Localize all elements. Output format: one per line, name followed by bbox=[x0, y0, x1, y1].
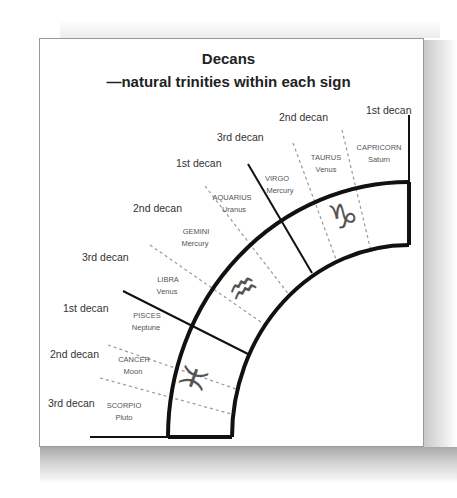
decan-label: 2nd decan bbox=[133, 202, 182, 214]
decan-label: 1st decan bbox=[63, 302, 109, 314]
pisces-glyph-icon: ♓ bbox=[170, 357, 218, 399]
ruler-name: Mercury bbox=[266, 186, 293, 195]
decan-label: 1st decan bbox=[366, 104, 412, 116]
sign-name: AQUARIUS bbox=[212, 193, 251, 202]
sign-name: PISCES bbox=[133, 311, 161, 320]
sign-name: TAURUS bbox=[311, 153, 341, 162]
ruler-name: Mercury bbox=[181, 239, 208, 248]
sign-name: GEMINI bbox=[183, 227, 210, 236]
inner-arc bbox=[232, 245, 409, 437]
decan-wheel: 1st decan 2nd decan 3rd decan 1st decan … bbox=[0, 0, 457, 498]
ruler-name: Venus bbox=[157, 287, 178, 296]
sign-name: SCORPIO bbox=[107, 401, 142, 410]
ruler-name: Neptune bbox=[132, 323, 160, 332]
sign-name: LIBRA bbox=[157, 275, 179, 284]
capricorn-glyph-icon: ♑ bbox=[325, 194, 361, 238]
decan-label: 3rd decan bbox=[48, 397, 95, 409]
decan-label: 1st decan bbox=[176, 157, 222, 169]
sign-name: VIRGO bbox=[265, 174, 289, 183]
ruler-name: Moon bbox=[124, 367, 143, 376]
sign-name: CAPRICORN bbox=[356, 143, 401, 152]
ruler-name: Pluto bbox=[115, 413, 132, 422]
ruler-name: Saturn bbox=[368, 155, 390, 164]
decan-label: 3rd decan bbox=[82, 251, 129, 263]
sign-name: CANCER bbox=[118, 355, 150, 364]
ruler-name: Uranus bbox=[222, 205, 246, 214]
decan-label: 2nd decan bbox=[50, 348, 99, 360]
decan-label: 2nd decan bbox=[279, 111, 328, 123]
decan-label: 3rd decan bbox=[217, 131, 264, 143]
ruler-name: Venus bbox=[316, 165, 337, 174]
